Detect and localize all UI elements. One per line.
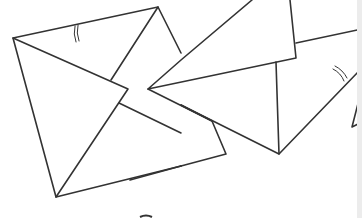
envelope-right-icon	[130, 0, 362, 180]
page-edge	[357, 0, 362, 218]
envelopes-drawing	[0, 0, 362, 218]
envelope-left-icon	[13, 7, 181, 197]
partial-shape-bottom	[140, 216, 152, 218]
